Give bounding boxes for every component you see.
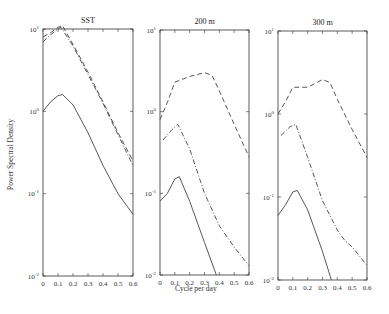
svg-text:0.2: 0.2 bbox=[303, 284, 312, 292]
svg-text:10-2: 10-2 bbox=[145, 271, 157, 280]
svg-text:10-1: 10-1 bbox=[28, 189, 40, 198]
x-axis-label: Cycle per day bbox=[175, 284, 217, 293]
svg-text:0.6: 0.6 bbox=[245, 279, 254, 287]
series-solid bbox=[278, 190, 331, 280]
svg-text:101: 101 bbox=[147, 26, 157, 35]
svg-text:0.1: 0.1 bbox=[54, 280, 63, 288]
svg-text:101: 101 bbox=[265, 27, 275, 36]
panel-title: 300 m bbox=[312, 18, 333, 27]
svg-text:0: 0 bbox=[41, 280, 45, 288]
spectral-density-figure: SST00.10.20.30.40.50.610-210-1100101200 … bbox=[0, 0, 389, 314]
series-solid bbox=[43, 95, 133, 215]
svg-text:100: 100 bbox=[147, 107, 157, 116]
series-solid bbox=[160, 177, 216, 275]
series-dashed bbox=[278, 80, 367, 158]
svg-text:0.6: 0.6 bbox=[363, 284, 372, 292]
svg-text:10-2: 10-2 bbox=[28, 272, 40, 281]
svg-text:100: 100 bbox=[30, 107, 40, 116]
svg-text:0.5: 0.5 bbox=[348, 284, 357, 292]
svg-text:100: 100 bbox=[265, 110, 275, 119]
svg-text:0: 0 bbox=[276, 284, 280, 292]
svg-text:0.1: 0.1 bbox=[288, 284, 297, 292]
panel-1: SST00.10.20.30.40.50.610-210-1100101 bbox=[28, 16, 138, 288]
panel-3: 300 m00.10.20.30.40.50.610-210-1100101 bbox=[263, 18, 372, 292]
svg-text:0.2: 0.2 bbox=[69, 280, 78, 288]
svg-text:0: 0 bbox=[158, 279, 162, 287]
svg-text:0.5: 0.5 bbox=[230, 279, 239, 287]
y-axis-label: Power Spectral Density bbox=[6, 95, 15, 215]
panel-title: 200 m bbox=[194, 17, 215, 26]
series-dashed bbox=[43, 26, 133, 161]
svg-text:10-2: 10-2 bbox=[263, 276, 275, 285]
panel-2: 200 m00.10.20.30.40.50.610-210-1100101 bbox=[145, 17, 254, 287]
series-dash-dot bbox=[163, 124, 249, 265]
series-dashed bbox=[160, 73, 249, 157]
panel-title: SST bbox=[81, 16, 95, 25]
svg-text:101: 101 bbox=[30, 25, 40, 34]
svg-text:0.3: 0.3 bbox=[318, 284, 327, 292]
svg-text:0.5: 0.5 bbox=[114, 280, 123, 288]
svg-text:0.4: 0.4 bbox=[333, 284, 342, 292]
svg-text:0.3: 0.3 bbox=[84, 280, 93, 288]
svg-text:0.6: 0.6 bbox=[129, 280, 138, 288]
svg-text:10-1: 10-1 bbox=[263, 193, 275, 202]
svg-text:0.4: 0.4 bbox=[99, 280, 108, 288]
svg-text:10-1: 10-1 bbox=[145, 189, 157, 198]
series-dash-dot bbox=[281, 124, 367, 265]
